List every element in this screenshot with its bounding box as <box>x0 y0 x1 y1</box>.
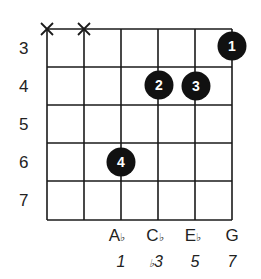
fretboard-grid <box>47 29 232 220</box>
fret-number: 3 <box>19 39 28 58</box>
note-label: A♭ <box>109 226 125 245</box>
fret-number: 7 <box>19 191 28 210</box>
finger-dot-2: 2 <box>145 71 174 100</box>
finger-dot-3: 3 <box>182 72 211 101</box>
fret-number: 5 <box>19 115 28 134</box>
fret-number: 4 <box>19 77 28 96</box>
interval-label: ♭3 <box>149 253 163 270</box>
chord-diagram: 3 4 5 6 7 1 2 3 4 A♭ C♭ E♭ G 1 ♭3 <box>0 0 261 279</box>
finger-dots: 1 2 3 4 <box>107 32 247 177</box>
note-names: A♭ C♭ E♭ G <box>109 226 239 245</box>
interval-label: 5 <box>191 253 200 270</box>
finger-dot-1: 1 <box>218 32 247 61</box>
svg-text:2: 2 <box>155 77 163 93</box>
interval-label: 1 <box>117 253 126 270</box>
svg-text:3: 3 <box>192 78 200 94</box>
svg-text:4: 4 <box>117 154 125 170</box>
note-label: G <box>225 226 238 245</box>
fret-numbers: 3 4 5 6 7 <box>19 39 28 210</box>
svg-text:1: 1 <box>228 38 236 54</box>
fret-number: 6 <box>19 153 28 172</box>
note-label: C♭ <box>146 226 163 245</box>
finger-dot-4: 4 <box>107 148 136 177</box>
note-label: E♭ <box>185 226 201 245</box>
intervals: 1 ♭3 5 7 <box>117 253 238 270</box>
interval-label: 7 <box>228 253 238 270</box>
